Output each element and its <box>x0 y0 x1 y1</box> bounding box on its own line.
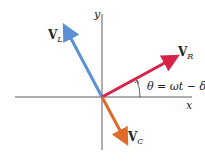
angle-arrowhead <box>135 80 139 84</box>
vector-v-c <box>102 97 124 138</box>
label-v-r: VR <box>178 45 193 61</box>
label-v-l: VL <box>48 28 63 44</box>
x-axis-label: x <box>186 99 192 112</box>
angle-label: θ = ωt − δ <box>147 80 205 93</box>
vector-v-l <box>67 31 102 97</box>
label-v-c: VC <box>128 130 143 146</box>
y-axis-label: y <box>94 8 100 21</box>
